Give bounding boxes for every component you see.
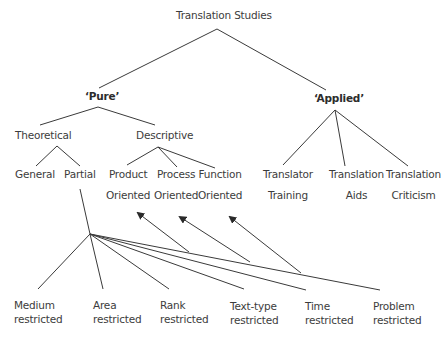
text-type-line2: restricted xyxy=(230,314,278,328)
medium-line2: restricted xyxy=(14,313,62,327)
area-restricted-label: Area restricted xyxy=(93,299,141,326)
time-line1: Time xyxy=(305,300,353,314)
aids-line1: Translation xyxy=(329,164,384,185)
process-line2: Oriented xyxy=(154,185,198,206)
translator-training-label: Translator Training xyxy=(263,164,313,206)
process-oriented-label: Process Oriented xyxy=(154,164,198,206)
rank-line2: restricted xyxy=(160,313,208,327)
product-line1: Product xyxy=(106,164,150,185)
criticism-line1: Translation xyxy=(386,164,441,185)
theoretical-label: Theoretical xyxy=(15,129,71,142)
criticism-line2: Criticism xyxy=(386,185,441,206)
applied-label: ‘Applied’ xyxy=(314,92,364,105)
function-line1: Function xyxy=(198,164,242,185)
text-type-line1: Text-type xyxy=(230,300,278,314)
rank-restricted-label: Rank restricted xyxy=(160,299,208,326)
process-line1: Process xyxy=(154,164,198,185)
medium-restricted-label: Medium restricted xyxy=(14,299,62,326)
translation-aids-label: Translation Aids xyxy=(329,164,384,206)
general-label: General xyxy=(15,168,55,181)
function-oriented-label: Function Oriented xyxy=(198,164,242,206)
descriptive-label: Descriptive xyxy=(136,129,193,142)
pure-label: ‘Pure’ xyxy=(85,90,119,103)
area-line1: Area xyxy=(93,299,141,313)
problem-line1: Problem xyxy=(373,300,421,314)
text-type-restricted-label: Text-type restricted xyxy=(230,300,278,327)
time-line2: restricted xyxy=(305,314,353,328)
translation-criticism-label: Translation Criticism xyxy=(386,164,441,206)
problem-restricted-label: Problem restricted xyxy=(373,300,421,327)
area-line2: restricted xyxy=(93,313,141,327)
medium-line1: Medium xyxy=(14,299,62,313)
time-restricted-label: Time restricted xyxy=(305,300,353,327)
training-line1: Translator xyxy=(263,164,313,185)
aids-line2: Aids xyxy=(329,185,384,206)
function-line2: Oriented xyxy=(198,185,242,206)
training-line2: Training xyxy=(263,185,313,206)
problem-line2: restricted xyxy=(373,314,421,328)
root-label: Translation Studies xyxy=(176,9,272,22)
rank-line1: Rank xyxy=(160,299,208,313)
partial-label: Partial xyxy=(64,168,96,181)
product-line2: Oriented xyxy=(106,185,150,206)
product-oriented-label: Product Oriented xyxy=(106,164,150,206)
